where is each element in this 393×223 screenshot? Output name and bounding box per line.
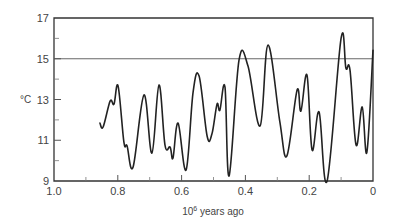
x-axis-title-base: 10 <box>182 206 194 217</box>
x-axis: 1.00.80.60.40.20 <box>46 175 376 197</box>
y-tick-label: 11 <box>38 134 49 146</box>
x-tick-label: 0.6 <box>174 185 189 197</box>
y-tick-label: 9 <box>43 175 49 187</box>
x-tick-label: 0 <box>370 185 376 197</box>
y-axis-title: °C <box>20 94 31 105</box>
y-tick-label: 17 <box>37 12 49 24</box>
x-tick-label: 0.4 <box>238 185 253 197</box>
x-axis-title-text: years ago <box>197 206 244 217</box>
x-tick-label: 0.8 <box>110 185 125 197</box>
temperature-line <box>100 33 373 183</box>
temperature-series <box>100 33 373 183</box>
y-tick-label: 13 <box>37 94 49 106</box>
y-tick-label: 15 <box>37 53 49 65</box>
x-tick-label: 0.2 <box>302 185 317 197</box>
y-axis: 911131517 <box>37 12 61 187</box>
x-axis-title: 106 years ago <box>182 205 244 217</box>
temperature-chart: 1.00.80.60.40.20 911131517 °C 106 years … <box>0 0 393 223</box>
plot-frame <box>54 18 373 181</box>
plot-border <box>54 18 373 181</box>
